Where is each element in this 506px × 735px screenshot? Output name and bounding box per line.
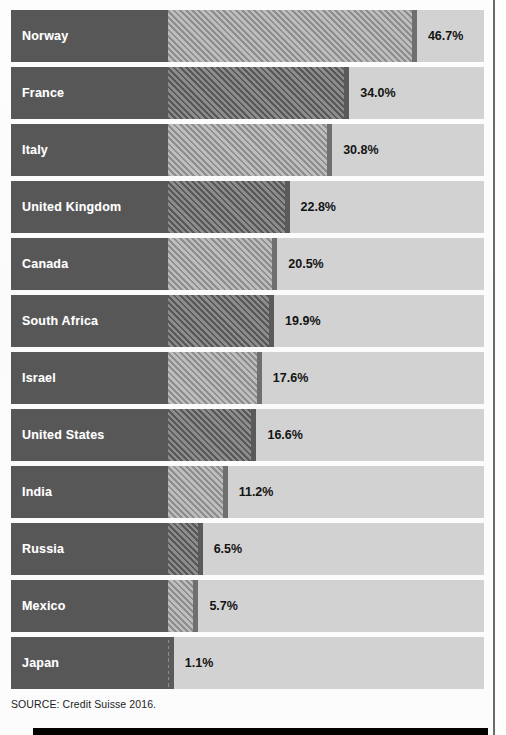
bar-row: France34.0% [11, 67, 484, 119]
value-label: 34.0% [360, 67, 395, 119]
category-label: Israel [22, 371, 56, 385]
bar-end-cap [257, 352, 262, 404]
category-label-block: United Kingdom [11, 181, 168, 233]
category-label-block: France [11, 67, 168, 119]
bar-fill [168, 637, 174, 689]
bar-fill [168, 124, 332, 176]
bar-fill [168, 295, 274, 347]
bar-row: Canada20.5% [11, 238, 484, 290]
category-label: United Kingdom [22, 200, 121, 214]
bar-fill [168, 352, 262, 404]
value-label: 11.2% [239, 466, 274, 518]
category-label-block: Russia [11, 523, 168, 575]
category-label-block: India [11, 466, 168, 518]
bar-row: Italy30.8% [11, 124, 484, 176]
category-label: United States [22, 428, 104, 442]
category-label: Russia [22, 542, 64, 556]
value-label: 5.7% [209, 580, 238, 632]
bar-end-cap [285, 181, 290, 233]
category-label: Mexico [22, 599, 66, 613]
bar-row: Russia6.5% [11, 523, 484, 575]
category-label-block: Israel [11, 352, 168, 404]
bar-fill [168, 523, 203, 575]
chart-page: Norway46.7%France34.0%Italy30.8%United K… [0, 0, 506, 735]
bar-end-cap [269, 295, 274, 347]
footer-rule [33, 728, 488, 735]
value-label: 22.8% [301, 181, 336, 233]
bar-fill [168, 466, 228, 518]
bar-row: United States16.6% [11, 409, 484, 461]
value-label: 20.5% [288, 238, 323, 290]
bar-end-cap [251, 409, 256, 461]
bar-fill [168, 409, 256, 461]
value-label: 30.8% [343, 124, 378, 176]
category-label-block: United States [11, 409, 168, 461]
category-label: Italy [22, 143, 48, 157]
bar-row: Mexico5.7% [11, 580, 484, 632]
value-label: 1.1% [185, 637, 214, 689]
category-label-block: Italy [11, 124, 168, 176]
page-edge-rule [493, 0, 495, 735]
bar-row: South Africa19.9% [11, 295, 484, 347]
bar-end-cap [344, 67, 349, 119]
bar-end-cap [193, 580, 198, 632]
bar-end-cap [412, 10, 417, 62]
bar-row: Japan1.1% [11, 637, 484, 689]
bar-end-cap [223, 466, 228, 518]
category-label: India [22, 485, 52, 499]
category-label-block: Japan [11, 637, 168, 689]
bar-fill [168, 67, 349, 119]
bar-row: Norway46.7% [11, 10, 484, 62]
bar-row: United Kingdom22.8% [11, 181, 484, 233]
category-label-block: Mexico [11, 580, 168, 632]
category-label: Canada [22, 257, 68, 271]
bar-end-cap [169, 637, 174, 689]
page-margin [497, 0, 506, 735]
bar-end-cap [327, 124, 332, 176]
value-label: 17.6% [273, 352, 308, 404]
category-label: France [22, 86, 64, 100]
bar-row: India11.2% [11, 466, 484, 518]
category-label-block: South Africa [11, 295, 168, 347]
bar-fill [168, 10, 417, 62]
bar-row: Israel17.6% [11, 352, 484, 404]
category-label-block: Canada [11, 238, 168, 290]
value-label: 6.5% [214, 523, 243, 575]
category-label-block: Norway [11, 10, 168, 62]
category-label: South Africa [22, 314, 98, 328]
source-note: SOURCE: Credit Suisse 2016. [11, 698, 156, 710]
bar-fill [168, 238, 277, 290]
bar-fill [168, 181, 290, 233]
bar-fill [168, 580, 198, 632]
bar-end-cap [272, 238, 277, 290]
value-label: 19.9% [285, 295, 320, 347]
bar-end-cap [198, 523, 203, 575]
category-label: Norway [22, 29, 68, 43]
value-label: 16.6% [267, 409, 302, 461]
value-label: 46.7% [428, 10, 463, 62]
category-label: Japan [22, 656, 59, 670]
